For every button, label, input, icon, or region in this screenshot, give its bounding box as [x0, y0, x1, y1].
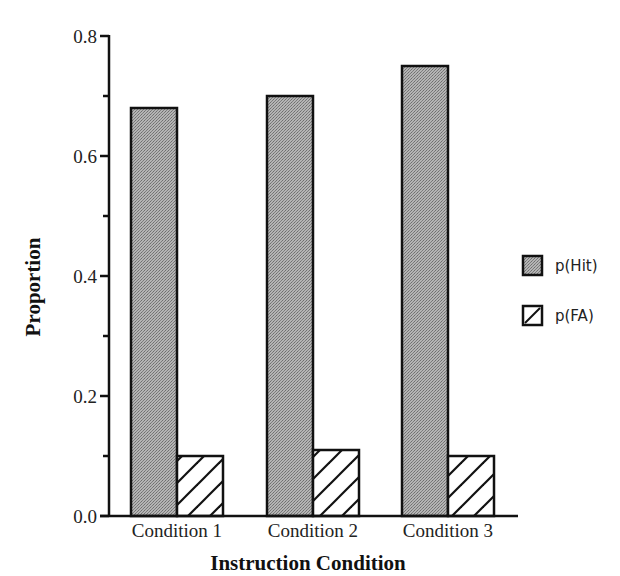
bar-fa-condition-3: [448, 456, 494, 516]
y-tick-label: 0.6: [73, 146, 97, 167]
legend-item-fa: p(FA): [523, 306, 594, 325]
y-tick-label: 0.8: [73, 26, 97, 47]
y-axis-title: Proportion: [21, 237, 45, 336]
bars: [131, 66, 494, 516]
x-tick-label: Condition 3: [403, 520, 493, 541]
legend-swatch-hit: [523, 256, 542, 275]
x-axis-title: Instruction Condition: [210, 551, 406, 575]
legend-item-hit: p(Hit): [523, 256, 598, 275]
bar-fa-condition-1: [177, 456, 223, 516]
bar-hit-condition-2: [267, 96, 313, 516]
bar-chart: 0.00.20.40.60.8 Proportion Condition 1Co…: [0, 0, 620, 576]
x-tick-label: Condition 2: [268, 520, 358, 541]
x-tick-label: Condition 1: [132, 520, 222, 541]
bar-fa-condition-2: [313, 450, 359, 516]
legend: p(Hit) p(FA): [523, 256, 598, 325]
legend-label-hit: p(Hit): [555, 257, 598, 275]
x-axis: Condition 1Condition 2Condition 3 Instru…: [100, 516, 518, 575]
legend-label-fa: p(FA): [555, 307, 594, 325]
bar-hit-condition-1: [131, 108, 177, 516]
y-tick-label: 0.4: [73, 266, 97, 287]
bar-hit-condition-3: [402, 66, 448, 516]
y-axis: 0.00.20.40.60.8 Proportion: [21, 26, 109, 527]
y-tick-label: 0.2: [73, 386, 97, 407]
y-tick-label: 0.0: [73, 506, 97, 527]
